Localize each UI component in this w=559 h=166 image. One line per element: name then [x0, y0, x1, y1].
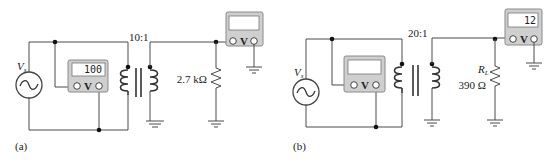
- load-value: 390 Ω: [459, 79, 486, 91]
- terminal-minus: [251, 38, 258, 45]
- load-label: RL: [477, 63, 489, 77]
- meter-symbol: V: [520, 33, 528, 45]
- load-value: 2.7 kΩ: [177, 73, 207, 85]
- voltmeter-secondary: V: [226, 12, 263, 47]
- meter-symbol: V: [361, 79, 369, 91]
- junction-dot: [53, 40, 58, 45]
- panel-a: Vs 100 V 10:1: [15, 12, 263, 153]
- turns-ratio: 10:1: [129, 31, 149, 43]
- transformer: 10:1: [121, 31, 158, 97]
- secondary-top-wire: [150, 42, 232, 67]
- ac-source: [293, 79, 319, 105]
- meter-reading: 100: [84, 64, 102, 75]
- voltmeter-secondary: 12 V: [505, 9, 542, 45]
- ac-source: [16, 72, 42, 98]
- load-resistor: [211, 42, 221, 121]
- primary-bottom-wire: [29, 95, 128, 130]
- terminal-plus: [230, 38, 237, 45]
- terminal-minus: [96, 83, 103, 90]
- meter-reading: 12: [524, 15, 536, 26]
- turns-ratio: 20:1: [408, 27, 428, 39]
- secondary-coil: [432, 67, 440, 88]
- panel-caption: (b): [293, 140, 306, 153]
- primary-coil: [121, 70, 129, 95]
- polarity-dot: [126, 65, 131, 70]
- ground-icon: [487, 120, 503, 126]
- secondary-coil: [150, 70, 158, 91]
- terminal-plus: [74, 83, 81, 90]
- junction-dot: [97, 128, 102, 133]
- transformer-circuits-figure: Vs 100 V 10:1: [0, 0, 559, 166]
- primary-coil: [395, 67, 403, 93]
- meter-symbol: V: [84, 80, 92, 92]
- ground-icon: [526, 63, 542, 69]
- ground-icon: [146, 121, 164, 127]
- panel-b: Vs V 20:1 RL 390 Ω: [293, 9, 542, 153]
- terminal-minus: [373, 82, 380, 89]
- terminal-plus: [351, 82, 358, 89]
- meter-symbol: V: [240, 35, 248, 47]
- ground-icon: [246, 67, 262, 73]
- panel-caption: (a): [15, 140, 28, 153]
- load-resistor: [490, 39, 500, 120]
- primary-bottom-wire: [306, 93, 402, 127]
- terminal-minus: [531, 36, 538, 43]
- voltmeter-primary: V: [344, 56, 385, 92]
- terminal-plus: [510, 36, 517, 43]
- transformer: 20:1: [395, 27, 440, 96]
- polarity-dot: [400, 62, 405, 67]
- source-label: Vs: [294, 66, 304, 80]
- junction-dot: [330, 37, 335, 42]
- source-label: Vs: [17, 60, 27, 74]
- secondary-top-wire: [432, 38, 511, 64]
- junction-dot: [374, 125, 379, 130]
- ground-icon: [208, 121, 224, 127]
- voltmeter-primary: 100 V: [68, 60, 108, 92]
- ground-icon: [424, 120, 440, 126]
